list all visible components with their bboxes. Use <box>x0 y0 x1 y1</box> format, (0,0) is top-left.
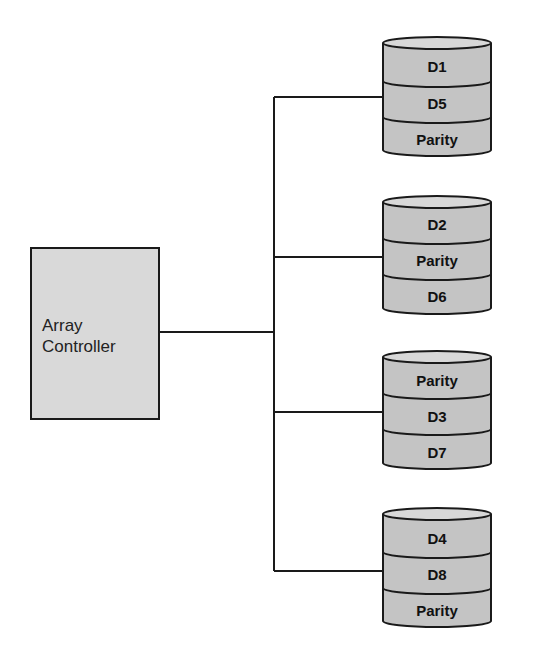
disk-2-block-2: Parity <box>416 252 458 269</box>
disk-3-block-2: D3 <box>427 408 446 425</box>
disk-3-block-1: Parity <box>416 372 458 389</box>
disk-4: D4 D8 Parity <box>383 508 491 627</box>
controller-label-line1: Array <box>42 316 83 335</box>
controller-label-line2: Controller <box>42 337 116 356</box>
disk-3-block-3: D7 <box>427 444 446 461</box>
disk-4-block-1: D4 <box>427 530 447 547</box>
disk-1-block-2: D5 <box>427 95 446 112</box>
array-controller: Array Controller <box>31 248 159 419</box>
connection-bus <box>159 97 383 571</box>
disk-3: Parity D3 D7 <box>383 351 491 469</box>
disk-1-block-3: Parity <box>416 131 458 148</box>
disk-2-block-3: D6 <box>427 288 446 305</box>
disk-2: D2 Parity D6 <box>383 196 491 314</box>
disk-4-block-2: D8 <box>427 566 446 583</box>
disk-1-block-1: D1 <box>427 58 446 75</box>
disk-2-block-1: D2 <box>427 216 446 233</box>
raid5-diagram: Array Controller D1 D5 Parity D2 Parity … <box>0 0 538 656</box>
disk-4-block-3: Parity <box>416 602 458 619</box>
disk-1: D1 D5 Parity <box>383 37 491 156</box>
